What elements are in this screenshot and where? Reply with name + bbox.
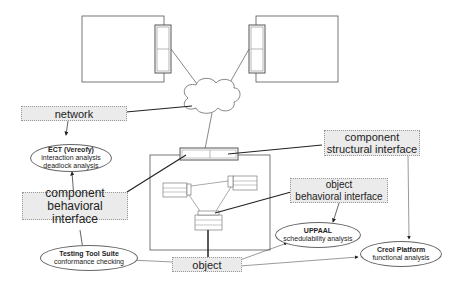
tool-title: Testing Tool Suite [59,250,119,258]
tool-desc: schedulability analysis [283,235,352,243]
tool-desc: functional analysis [372,254,429,262]
tool-title: Creol Platform [377,246,425,254]
label-line-1: component [345,131,399,143]
testing-tool-suite: Testing Tool Suiteconformance checking [40,245,138,271]
creol-platform-tool: Creol Platformfunctional analysis [360,241,442,267]
object-behavioral-interface-label: objectbehavioral interface [290,178,388,203]
label-line-2: behavioral interface [23,200,127,226]
network-text: network [55,108,94,120]
network-label: network [21,106,127,121]
label-line-1: object [326,179,353,191]
tool-desc: conformance checking [54,258,124,266]
component-structural-interface-label: componentstructural interface [324,130,420,156]
ect-vereofy-tool: ECT (Vereofy)interaction analysisdeadloc… [30,144,112,172]
label-line-1: component [45,187,104,200]
tool-desc: interaction analysis [41,154,101,162]
tool-desc-2: deadlock analysis [43,162,98,170]
object-label: object [172,257,242,272]
label-line-2: structural interface [327,143,417,155]
object-text: object [192,259,221,271]
tool-title: UPPAAL [304,227,332,235]
network-cloud [184,78,240,113]
uppaal-tool: UPPAALschedulability analysis [275,222,361,248]
component-main [150,148,270,250]
component-top-left [82,16,171,82]
label-line-2: behavioral interface [295,191,382,203]
component-behavioral-interface-label: componentbehavioral interface [22,192,128,220]
tool-title: ECT (Vereofy) [48,146,94,154]
component-top-right [249,16,338,82]
